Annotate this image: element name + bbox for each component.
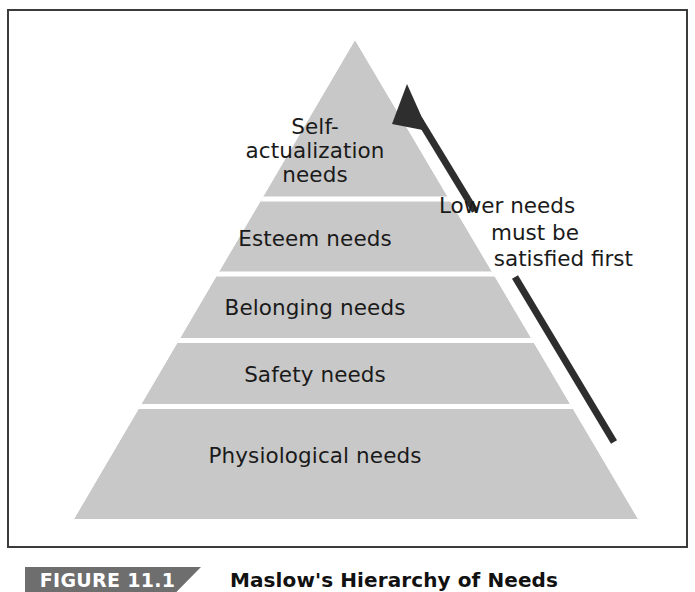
pyramid-graphic	[9, 11, 690, 550]
lower-needs-annotation: Lower needs must be satisfied first	[437, 193, 633, 273]
figure-title: Maslow's Hierarchy of Needs	[230, 567, 558, 592]
pyramid-body	[74, 40, 638, 519]
figure-number-label: FIGURE 11.1	[25, 567, 190, 592]
annotation-line-2: must be	[437, 220, 633, 247]
pyramid-tiers	[9, 40, 690, 519]
figure-frame: Self- actualization needs Esteem needs B…	[7, 9, 688, 548]
figure-caption: FIGURE 11.1 Maslow's Hierarchy of Needs	[0, 560, 695, 592]
annotation-line-1: Lower needs	[437, 193, 633, 220]
annotation-line-3: satisfied first	[437, 246, 633, 273]
tier-divider-3	[9, 338, 690, 343]
upward-arrow-head-icon	[392, 84, 428, 131]
maslow-pyramid-diagram: Self- actualization needs Esteem needs B…	[9, 11, 690, 550]
